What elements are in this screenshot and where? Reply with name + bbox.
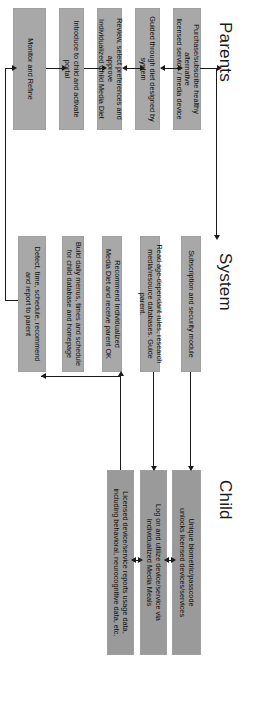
lane-title-child: Child bbox=[215, 480, 235, 520]
swimlane-diagram: Parents System Child Purchase/subscribe … bbox=[0, 0, 255, 704]
connector-p1-s1 bbox=[200, 68, 217, 69]
node-child-log-on-utilize: Log on and utilize device/service via In… bbox=[140, 470, 167, 655]
arrowhead-up bbox=[140, 65, 145, 71]
arrowhead-up bbox=[138, 557, 143, 563]
node-text-line2: media/resource databases. Guide parent. bbox=[137, 240, 155, 368]
node-text-line2: Individualized Media Meals bbox=[145, 504, 154, 621]
arrowhead-up bbox=[178, 65, 183, 71]
node-system-subscription-security: Subscription and security module bbox=[181, 236, 201, 372]
node-text-line2: and report to parent bbox=[23, 247, 32, 362]
connector-p5-s5 bbox=[46, 68, 63, 69]
node-text-line2: Media Diet and receive parent OK bbox=[103, 249, 112, 359]
connector-p4-s4 bbox=[84, 68, 103, 69]
arrowhead-up bbox=[217, 65, 222, 71]
connector-s5-p5-h bbox=[5, 68, 6, 301]
arrowhead-down bbox=[122, 65, 127, 71]
node-parents-monitor-refine: Monitor and Refine bbox=[13, 8, 46, 130]
connector-p1-s1-h bbox=[216, 68, 217, 236]
arrowhead-right bbox=[214, 235, 220, 240]
node-text-line1: Read age-dependant rules, research bbox=[154, 240, 163, 368]
arrowhead-up bbox=[171, 557, 176, 563]
node-text-line1: Monitor and Refine bbox=[25, 38, 34, 100]
arrowhead-down bbox=[41, 373, 46, 379]
arrowhead-up bbox=[12, 65, 17, 71]
arrowhead-down bbox=[160, 65, 165, 71]
node-text-line2: for child database and homepage bbox=[64, 242, 73, 366]
node-text-line2: including behavioral, neurocognitive dat… bbox=[112, 488, 121, 636]
node-text-line1: Recommend Individualized bbox=[112, 249, 121, 359]
node-child-biometric-unlock: Unique biometric/passcode unlocks licens… bbox=[172, 470, 201, 655]
node-text-line1: Detect, time, schedule, recommend bbox=[32, 247, 41, 362]
arrowhead-down bbox=[164, 557, 169, 563]
node-system-detect-report: Detect, time, schedule, recommend and re… bbox=[18, 236, 46, 372]
arrowhead-down bbox=[131, 557, 136, 563]
connector-c3-s5-v bbox=[41, 376, 121, 377]
node-text-line1: Log on and utilize device/service via bbox=[154, 504, 163, 621]
node-system-build-daily-menus: Build daily menus, times and schedule fo… bbox=[62, 236, 84, 372]
connector-s4-c2-h bbox=[153, 372, 154, 470]
lane-title-parents: Parents bbox=[215, 22, 235, 82]
arrowhead-right bbox=[188, 466, 194, 471]
node-system-recommend-media-diet: Recommend Individualized Media Diet and … bbox=[102, 236, 122, 372]
arrowhead-up bbox=[62, 65, 67, 71]
node-text-line1: Unique biometric/passcode bbox=[187, 508, 196, 617]
node-text-line1: Build daily menus, times and schedule bbox=[73, 242, 82, 366]
node-text-line2: unlocks licensed devices/services bbox=[178, 508, 187, 617]
node-system-read-rules-research: Read age-dependant rules, research media… bbox=[140, 236, 160, 372]
connector-s5-p5-v bbox=[6, 300, 18, 301]
arrowhead-up bbox=[102, 65, 107, 71]
connector-c3-s5-h bbox=[120, 376, 121, 470]
node-text-line1: Licensed device/service reports usage da… bbox=[121, 488, 130, 636]
arrowhead-right bbox=[151, 466, 157, 471]
lane-title-system: System bbox=[215, 253, 235, 311]
connector-s1-c1-h bbox=[190, 372, 191, 470]
node-text-line1: Review, select preferences and approve bbox=[105, 12, 123, 126]
node-child-device-reports-usage: Licensed device/service reports usage da… bbox=[107, 470, 134, 655]
node-text-line1: Purchase/subscribe healthy alternative bbox=[183, 12, 201, 126]
node-text-line1: Subscription and security module bbox=[187, 250, 196, 357]
